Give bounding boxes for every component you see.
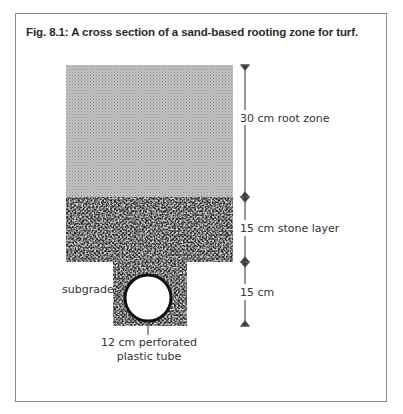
trench-depth-label: 15 cm: [240, 286, 274, 299]
tube-label-line2: plastic tube: [98, 350, 200, 363]
subgrade-label: subgrade: [62, 283, 114, 296]
root-zone-layer: [66, 65, 233, 197]
tube-label-line1: 12 cm perforated: [98, 336, 200, 349]
stone-layer-label: 15 cm stone layer: [240, 222, 339, 235]
cross-section-diagram: [0, 0, 403, 414]
root-zone-label: 30 cm root zone: [240, 112, 330, 125]
